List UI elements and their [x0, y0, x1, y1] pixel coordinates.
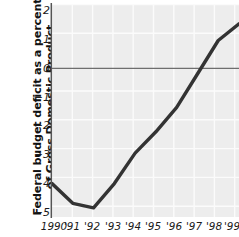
x-tick-92: '92	[84, 221, 100, 232]
x-tick-91: '91	[64, 221, 80, 232]
axis-spines	[0, 0, 239, 237]
x-tick-96: '96	[166, 221, 182, 232]
x-tick-99: '99	[224, 221, 239, 232]
x-tick-94: '94	[125, 221, 141, 232]
chart-figure: Federal budget deficit as a percent of G…	[0, 0, 239, 237]
x-tick-98: '98	[206, 221, 222, 232]
x-tick-95: '95	[145, 221, 161, 232]
x-axis-tick-labels: 1990 '91 '92 '93 '94 '95 '96 '97 '98 '99	[0, 221, 239, 237]
x-tick-93: '93	[105, 221, 121, 232]
x-tick-97: '97	[186, 221, 202, 232]
